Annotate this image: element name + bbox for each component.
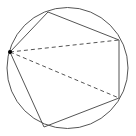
- geometry-diagram: [0, 0, 136, 136]
- diagonal-2: [10, 52, 119, 98]
- pentagon: [10, 12, 119, 127]
- diagonals: [10, 40, 119, 98]
- circumscribed-circle: [7, 8, 128, 129]
- vertex-point: [8, 50, 12, 54]
- diagonal-1: [10, 40, 119, 52]
